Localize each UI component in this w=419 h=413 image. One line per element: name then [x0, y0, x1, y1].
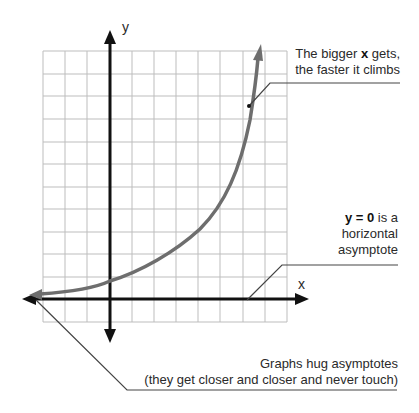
exponential-curve [29, 44, 263, 300]
y-axis-label: y [122, 19, 129, 35]
y-axis-down-arrow-icon [104, 329, 116, 343]
x-axis-label: x [298, 276, 305, 292]
grid [43, 51, 287, 322]
asymptote-annotation: y = 0 is a horizontal asymptote [280, 210, 398, 258]
y-axis-up-arrow-icon [104, 30, 116, 44]
climb-annotation: The bigger x gets, the faster it climbs [240, 46, 400, 78]
x-axis-right-arrow-icon [295, 293, 309, 305]
hug-annotation: Graphs hug asymptotes (they get closer a… [120, 356, 398, 388]
